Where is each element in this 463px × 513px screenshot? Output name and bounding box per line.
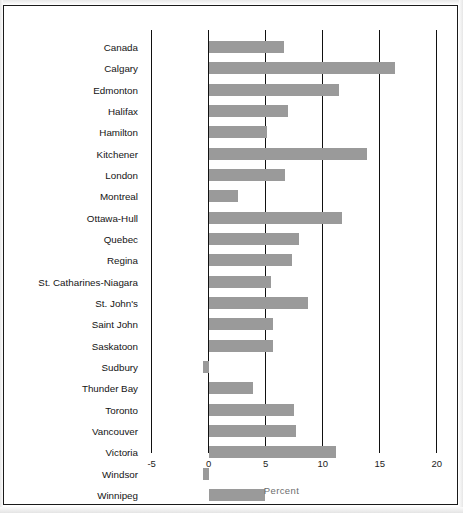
category-label: Regina	[107, 255, 138, 266]
bar	[209, 297, 308, 309]
category-label: St. John's	[95, 298, 138, 309]
category-label: Toronto	[105, 405, 138, 416]
x-tick-label: 0	[194, 458, 224, 469]
x-tick-label: 20	[422, 458, 452, 469]
bar	[209, 148, 367, 160]
category-label: Saint John	[92, 319, 138, 330]
bar	[209, 212, 342, 224]
category-label: Sudbury	[102, 362, 139, 373]
chart-figure-frame: CanadaCalgaryEdmontonHalifaxHamiltonKitc…	[3, 5, 458, 505]
bar	[209, 254, 292, 266]
gridline-neg5	[151, 30, 152, 453]
gridline-15	[379, 30, 380, 453]
category-label: Victoria	[106, 447, 139, 458]
bar	[203, 361, 209, 373]
x-axis-title: Percent	[4, 485, 459, 496]
bar	[209, 425, 297, 437]
bar	[209, 233, 299, 245]
bar	[209, 340, 273, 352]
bar	[209, 404, 295, 416]
scan-edge-bottom	[0, 507, 463, 513]
bar	[209, 190, 239, 202]
bar	[209, 41, 284, 53]
bar	[209, 276, 272, 288]
category-label: Kitchener	[97, 149, 138, 160]
bar	[209, 105, 289, 117]
x-tick-label: 10	[308, 458, 338, 469]
bar	[209, 318, 273, 330]
category-label: Saskatoon	[92, 341, 138, 352]
bar	[209, 62, 395, 74]
category-label: Calgary	[104, 63, 138, 74]
category-label: Edmonton	[93, 85, 138, 96]
category-label: Hamilton	[99, 127, 138, 138]
scan-edge-right	[459, 0, 463, 513]
plot-area: CanadaCalgaryEdmontonHalifaxHamiltonKitc…	[4, 6, 459, 506]
category-label: St. Catharines-Niagara	[38, 277, 138, 288]
category-label: Vancouver	[92, 426, 138, 437]
category-label: Windsor	[102, 469, 138, 480]
gridline-20	[436, 30, 437, 453]
bar	[209, 382, 253, 394]
category-label: Canada	[104, 42, 138, 53]
category-label: Halifax	[108, 106, 138, 117]
x-tick-label: 5	[251, 458, 281, 469]
bar	[209, 126, 267, 138]
bar	[209, 446, 337, 458]
x-tick-label: -5	[137, 458, 167, 469]
bar	[203, 468, 209, 480]
scan-edge-top	[0, 0, 463, 4]
bar	[209, 169, 285, 181]
category-label: Thunder Bay	[82, 383, 138, 394]
category-label: Montreal	[100, 191, 138, 202]
category-label: Quebec	[104, 234, 138, 245]
x-axis-title-text: Percent	[264, 485, 300, 496]
x-tick-label: 15	[365, 458, 395, 469]
category-label: Ottawa-Hull	[87, 213, 138, 224]
category-label: London	[105, 170, 138, 181]
bar	[209, 84, 339, 96]
